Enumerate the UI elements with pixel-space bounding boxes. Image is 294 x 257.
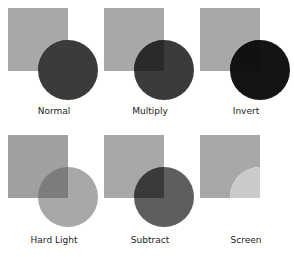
blend-label: Subtract [104, 235, 196, 245]
blend-label: Multiply [104, 106, 196, 116]
overlap-region [38, 167, 68, 198]
panel-normal: Normal [8, 8, 104, 133]
panel-screen: Screen [200, 135, 294, 257]
overlap-region [230, 40, 260, 71]
panel-hard-light: Hard Light [8, 135, 104, 257]
circle-shape [38, 167, 98, 227]
panel-multiply: Multiply [104, 8, 200, 133]
circle-shape [38, 40, 98, 100]
blend-label: Screen [200, 235, 292, 245]
circle-shape [134, 40, 194, 100]
overlap-region [230, 167, 260, 198]
circle-shape [230, 167, 290, 227]
overlap-region [38, 40, 68, 71]
circle-shape [230, 40, 290, 100]
panel-subtract: Subtract [104, 135, 200, 257]
overlap-region [134, 40, 164, 71]
overlap-region [134, 167, 164, 198]
blend-label: Hard Light [8, 235, 100, 245]
blend-label: Normal [8, 106, 100, 116]
panel-invert: Invert [200, 8, 294, 133]
blend-label: Invert [200, 106, 292, 116]
circle-shape [134, 167, 194, 227]
